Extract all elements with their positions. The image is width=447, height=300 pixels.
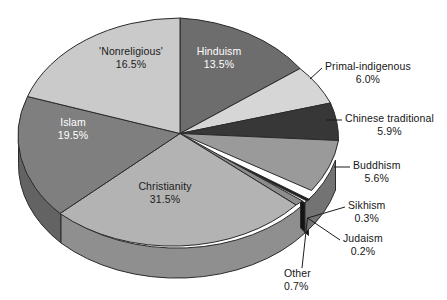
callout-judaism: Judaism 0.2%	[343, 232, 383, 257]
callout-buddhism-name: Buddhism	[353, 159, 401, 171]
callout-other-pct: 0.7%	[284, 280, 311, 293]
slice-label-islam-name: Islam	[60, 116, 86, 128]
callout-sikhism: Sikhism 0.3%	[348, 199, 385, 224]
slice-label-christianity-name: Christianity	[138, 180, 191, 192]
callout-chinese-traditional-pct: 5.9%	[345, 125, 434, 138]
slice-label-hinduism-name: Hinduism	[197, 45, 242, 57]
callout-judaism-name: Judaism	[343, 232, 383, 244]
callout-primal-indigenous-pct: 6.0%	[325, 73, 411, 86]
callout-primal-indigenous: Primal-indigenous 6.0%	[325, 60, 411, 85]
callout-buddhism-pct: 5.6%	[353, 172, 401, 185]
slice-label-hinduism: Hinduism 13.5%	[174, 45, 264, 70]
pie-chart: Hinduism 13.5% 'Nonreligious' 16.5% Isla…	[0, 0, 447, 300]
callout-sikhism-name: Sikhism	[348, 199, 385, 211]
callout-judaism-pct: 0.2%	[343, 245, 383, 258]
callout-primal-indigenous-name: Primal-indigenous	[325, 60, 411, 72]
slice-label-nonreligious-name: 'Nonreligious'	[99, 45, 163, 57]
callout-buddhism: Buddhism 5.6%	[353, 159, 401, 184]
slice-label-islam: Islam 19.5%	[33, 116, 113, 141]
slice-label-christianity: Christianity 31.5%	[115, 180, 215, 205]
callout-chinese-traditional-name: Chinese traditional	[345, 112, 434, 124]
callout-sikhism-pct: 0.3%	[348, 212, 385, 225]
slice-label-nonreligious-pct: 16.5%	[76, 58, 186, 71]
slice-label-christianity-pct: 31.5%	[115, 193, 215, 206]
slice-label-islam-pct: 19.5%	[33, 129, 113, 142]
callout-chinese-traditional: Chinese traditional 5.9%	[345, 112, 434, 137]
callout-other: Other 0.7%	[284, 267, 311, 292]
slice-label-hinduism-pct: 13.5%	[174, 58, 264, 71]
slice-label-nonreligious: 'Nonreligious' 16.5%	[76, 45, 186, 70]
leader-line-judaism	[308, 218, 341, 240]
callout-other-name: Other	[284, 267, 311, 279]
leader-line-primal-indigenous	[310, 68, 322, 79]
